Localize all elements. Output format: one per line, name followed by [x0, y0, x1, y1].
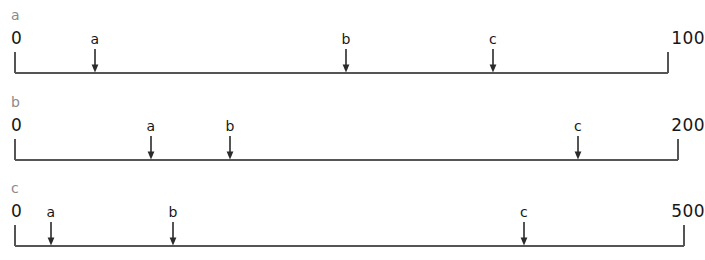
number-line-figure: a 0 100 a b c b 0 200 a b c c 0 500 a b … — [0, 0, 705, 260]
axis-graphic-b — [0, 87, 705, 177]
axis-graphic-c — [0, 173, 705, 260]
number-line-panel-c: c 0 500 a b c — [0, 173, 705, 260]
number-line-panel-a: a 0 100 a b c — [0, 0, 705, 91]
number-line-panel-b: b 0 200 a b c — [0, 87, 705, 178]
axis-graphic-a — [0, 0, 705, 90]
